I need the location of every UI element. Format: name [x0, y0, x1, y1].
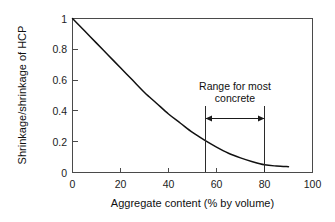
x-tick-label-0: 0: [70, 178, 76, 190]
x-tick-label-100: 100: [304, 178, 322, 190]
y-tick-label-0-4: 0.4: [52, 105, 67, 117]
x-tick-label-60: 60: [211, 178, 223, 190]
y-tick-label-0-6: 0.6: [52, 74, 67, 86]
shrinkage-vs-aggregate-chart: 0 0.2 0.4 0.6 0.8 1 0 20 40 60 80 100: [0, 0, 335, 222]
y-tick-label-1: 1: [61, 13, 67, 25]
range-annotation-line1: Range for most: [199, 80, 271, 92]
chart-container: 0 0.2 0.4 0.6 0.8 1 0 20 40 60 80 100: [0, 0, 335, 222]
y-tick-label-0: 0: [61, 167, 67, 179]
x-tick-label-20: 20: [115, 178, 127, 190]
x-axis-title: Aggregate content (% by volume): [111, 197, 274, 209]
range-annotation-line2: concrete: [215, 92, 255, 104]
x-tick-label-40: 40: [163, 178, 175, 190]
y-tick-label-0-8: 0.8: [52, 43, 67, 55]
y-axis-title: Shrinkage/shrinkage of HCP: [16, 26, 28, 165]
y-tick-label-0-2: 0.2: [52, 136, 67, 148]
x-tick-label-80: 80: [259, 178, 271, 190]
